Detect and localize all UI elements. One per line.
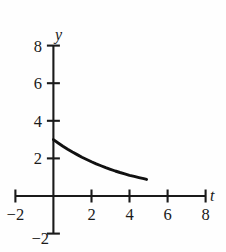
y-axis-title: y [53, 26, 63, 44]
y-tick-label-4: 4 [34, 112, 42, 131]
x-tick-label-4: 4 [125, 205, 133, 224]
y-tick-label--2: −2 [31, 229, 49, 248]
x-axis-title: t [210, 187, 215, 204]
y-tick-label-6: 6 [34, 74, 42, 93]
chart-canvas: −2 2 4 6 8 8 6 4 2 −2 y t [0, 0, 226, 252]
decay-curve-path [53, 140, 146, 180]
x-tick-label--2: −2 [7, 205, 25, 224]
x-tick-label-6: 6 [163, 205, 171, 224]
y-tick-label-2: 2 [34, 149, 42, 168]
x-tick-label-2: 2 [87, 205, 95, 224]
y-tick-label-8: 8 [34, 37, 42, 56]
x-tick-label-8: 8 [201, 205, 209, 224]
chart-figure: −2 2 4 6 8 8 6 4 2 −2 y t [0, 0, 226, 252]
